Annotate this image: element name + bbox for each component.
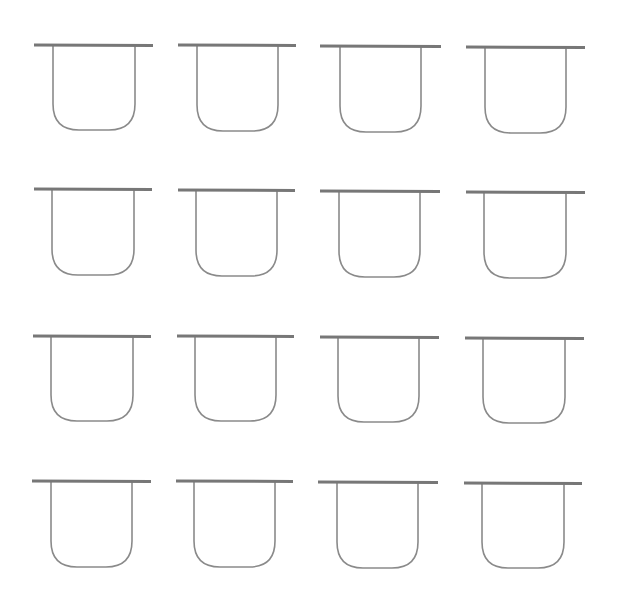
u-outline <box>194 482 275 567</box>
top-bar <box>466 47 585 48</box>
top-bar <box>178 190 295 191</box>
cup-shape <box>466 47 585 133</box>
top-bar <box>176 481 293 482</box>
u-outline <box>196 191 277 276</box>
top-bar <box>320 191 440 192</box>
u-outline <box>485 48 566 133</box>
top-bar <box>34 189 152 190</box>
top-bar <box>32 481 151 482</box>
cup-shape <box>34 189 152 275</box>
cup-shape <box>320 337 439 422</box>
diagram-canvas <box>0 0 618 607</box>
u-outline <box>339 192 420 277</box>
cup-shape <box>33 336 151 421</box>
u-outline <box>338 338 419 422</box>
u-outline <box>483 339 565 423</box>
top-bar <box>34 45 153 46</box>
cup-shape <box>320 46 441 132</box>
u-outline <box>195 337 276 421</box>
top-bar <box>320 337 439 338</box>
top-bar <box>466 192 585 193</box>
cup-shape <box>465 338 584 423</box>
cup-shape <box>464 483 582 568</box>
top-bar <box>178 45 296 46</box>
u-outline <box>52 190 134 275</box>
top-bar <box>320 46 441 47</box>
u-outline <box>484 193 566 278</box>
cup-shape <box>34 45 153 130</box>
cup-shape <box>177 336 294 421</box>
top-bar <box>177 336 294 337</box>
cup-shape <box>178 45 296 131</box>
top-bar <box>33 336 151 337</box>
cup-shape <box>320 191 440 277</box>
cup-shape <box>32 481 151 567</box>
u-outline <box>340 47 421 132</box>
u-outline <box>337 483 418 568</box>
u-outline <box>51 482 132 567</box>
u-outline <box>51 337 133 421</box>
u-outline <box>482 484 564 568</box>
top-bar <box>318 482 438 483</box>
cup-shape <box>176 481 293 567</box>
top-bar <box>464 483 582 484</box>
u-outline <box>53 46 135 130</box>
cup-shape <box>178 190 295 276</box>
cup-shape <box>466 192 585 278</box>
top-bar <box>465 338 584 339</box>
cup-shape <box>318 482 438 568</box>
u-outline <box>197 46 278 131</box>
